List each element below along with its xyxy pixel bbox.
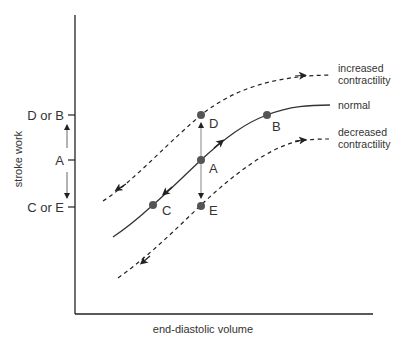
point-label-d: D xyxy=(209,116,218,131)
point-b xyxy=(263,111,271,119)
point-label-b: B xyxy=(272,119,281,134)
curve-increased-contractility xyxy=(103,75,330,201)
y-axis-label: stroke work xyxy=(12,130,24,187)
frank-starling-diagram: D or B A C or E stroke work end-diastoli… xyxy=(0,0,403,344)
arrow-right-icon xyxy=(295,140,303,141)
axes xyxy=(68,15,373,314)
y-tick-label-c-or-e: C or E xyxy=(27,200,64,215)
point-e xyxy=(197,202,205,210)
arrow-up-right-icon xyxy=(214,142,221,148)
point-a xyxy=(197,156,205,164)
arrow-right-icon xyxy=(295,76,303,77)
curve-label-normal: normal xyxy=(338,99,370,111)
curve-normal xyxy=(113,105,330,237)
arrow-left-icon xyxy=(118,184,126,189)
arrow-down-left-icon xyxy=(143,256,150,262)
point-d xyxy=(197,111,205,119)
y-tick-label-d-or-b: D or B xyxy=(27,108,64,123)
x-axis-label: end-diastolic volume xyxy=(153,323,253,335)
arrow-down-left-icon xyxy=(165,187,172,193)
point-label-c: C xyxy=(162,203,171,218)
curve-label-increased-line2: contractility xyxy=(338,74,391,86)
y-tick-label-a: A xyxy=(55,153,64,168)
point-label-a: A xyxy=(209,161,218,176)
point-c xyxy=(149,201,157,209)
curve-label-decreased-line1: decreased xyxy=(338,126,387,138)
curve-label-decreased-line2: contractility xyxy=(338,138,391,150)
point-label-e: E xyxy=(209,203,218,218)
curve-label-increased-line1: increased xyxy=(338,62,384,74)
